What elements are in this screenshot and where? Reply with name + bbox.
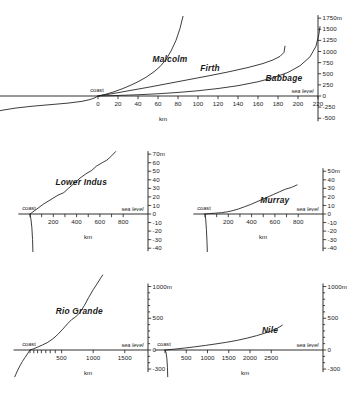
y-tick-label: 1750m [323,14,342,21]
river-profile-curve [205,214,207,252]
sea-level-label: sea level [121,342,144,348]
x-tick-label: 60 [154,100,162,107]
y-tick-label: 20 [153,193,161,200]
sea-level-label: sea level [296,206,319,212]
coast-label: coast [22,341,36,347]
sea-level-label: sea level [296,342,319,348]
river-profile-curve [0,96,98,116]
x-tick-label: 220 [313,100,324,107]
river-profile-figure: -500-25002505007501000125015001750m02040… [0,0,358,406]
x-axis-title: km [241,369,249,376]
y-tick-label: 30 [153,184,161,191]
sea-level-label: sea level [291,88,314,94]
figure-canvas: -500-25002505007501000125015001750m02040… [0,0,358,406]
y-tick-label: -20 [328,227,338,234]
x-tick-label: 600 [270,218,281,225]
panel-murray: -40-30-20-1001020304050m200400600800kmco… [193,167,340,251]
y-tick-label: -300 [328,365,341,372]
x-tick-label: 0 [96,100,100,107]
y-tick-label: 30 [328,184,336,191]
y-tick-label: 10 [153,202,161,209]
sea-level-label: sea level [121,206,144,212]
x-tick-label: 140 [233,100,244,107]
x-tick-label: 40 [134,100,142,107]
curve-label: Babbage [266,73,303,83]
y-tick-label: 1000m [328,283,347,290]
y-tick-label: 40 [328,176,336,183]
y-tick-label: 70m [153,150,165,157]
y-tick-label: 1000 [323,48,338,55]
coast-label: coast [157,341,171,347]
y-tick-label: -250 [323,103,336,110]
x-axis-title: km [84,233,92,240]
panel-nile: -30005001000m5001000150020002500kmcoasts… [155,283,347,377]
y-tick-label: 500 [153,314,164,321]
y-tick-label: -500 [323,114,336,121]
y-tick-label: -30 [153,236,163,243]
y-tick-label: -10 [328,219,338,226]
x-tick-label: 2500 [264,354,279,361]
x-tick-label: 80 [174,100,182,107]
y-tick-label: 20 [328,193,336,200]
y-tick-label: 1250 [323,36,338,43]
x-tick-label: 1000 [200,354,215,361]
river-profile-curve [98,46,285,96]
x-tick-label: 400 [246,218,257,225]
x-tick-label: 160 [253,100,264,107]
y-tick-label: 40 [153,176,161,183]
x-tick-label: 180 [273,100,284,107]
curve-label: Murray [260,195,289,205]
x-tick-label: 120 [213,100,224,107]
y-tick-label: 500 [323,70,334,77]
curve-label: Nile [262,325,278,335]
x-tick-label: 2000 [243,354,258,361]
x-tick-label: 1500 [118,354,133,361]
panel-rio-grande: -30005001000m50010001500kmcoastsea level… [14,275,172,377]
y-tick-label: 250 [323,81,334,88]
x-tick-label: 200 [48,218,59,225]
y-tick-label: 1000m [153,283,172,290]
coast-label: coast [90,87,104,93]
y-tick-label: 60 [153,159,161,166]
x-tick-label: 100 [193,100,204,107]
river-profile-curve [15,350,30,377]
x-tick-label: 600 [95,218,106,225]
x-tick-label: 20 [114,100,122,107]
x-tick-label: 400 [71,218,82,225]
river-profile-curve [30,214,33,252]
y-tick-label: 50m [328,167,340,174]
y-tick-label: 750 [323,59,334,66]
curve-label: Firth [200,63,220,73]
y-tick-label: 1500 [323,25,338,32]
x-tick-label: 200 [293,100,304,107]
y-tick-label: 10 [328,202,336,209]
y-tick-label: 0 [328,346,332,353]
curve-label: Lower Indus [55,177,107,187]
x-tick-label: 1500 [222,354,237,361]
y-tick-label: -40 [153,244,163,251]
x-tick-label: 500 [181,354,192,361]
x-tick-label: 200 [223,218,234,225]
x-tick-label: 1000 [86,354,101,361]
y-tick-label: 0 [153,210,157,217]
x-axis-title: km [159,115,167,122]
curve-label: Malcolm [153,54,188,64]
panel-lower-indus: -40-30-20-10010203040506070m200400600800… [18,150,165,251]
x-axis-title: km [84,369,92,376]
y-tick-label: -10 [153,219,163,226]
y-tick-label: -20 [153,227,163,234]
y-tick-label: -300 [153,365,166,372]
x-tick-label: 800 [293,218,304,225]
x-axis-title: km [259,233,267,240]
y-tick-label: -40 [328,244,338,251]
y-tick-label: -30 [328,236,338,243]
river-profile-curve [98,27,320,96]
y-tick-label: 50 [153,167,161,174]
y-tick-label: 0 [328,210,332,217]
panel-arctic: -500-25002505007501000125015001750m02040… [0,14,342,122]
x-tick-label: 500 [56,354,67,361]
coast-label: coast [197,205,211,211]
river-profile-curve [165,350,168,377]
y-tick-label: 500 [328,314,339,321]
curve-label: Rio Grande [56,306,103,316]
